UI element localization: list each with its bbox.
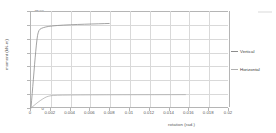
gridline-vertical [229,11,230,107]
chart-container: moment (kN-m) rotation (rad.) 0500100015… [0,0,276,133]
legend-item-horizontal[interactable]: Horizontal [231,65,276,74]
x-tick-mark [228,108,229,111]
legend-item-vertical[interactable]: Vertical [231,47,276,56]
x-tick-mark [50,108,51,111]
series-lines [31,11,229,108]
legend-line-swatch [231,69,238,70]
x-tick-mark [89,108,90,111]
x-tick-mark [169,108,170,111]
legend-item-label: Horizontal [240,67,260,72]
x-tick-mark [188,108,189,111]
x-tick-mark [129,108,130,111]
plot-area [30,11,228,108]
x-axis-title: rotation (rad.) [168,122,195,127]
legend-item-label: Vertical [240,49,254,54]
x-tick-mark [30,108,31,111]
corner-artifact [258,11,272,13]
x-tick-mark [109,108,110,111]
x-tick-mark [149,108,150,111]
x-tick-mark [70,108,71,111]
x-tick-mark [208,108,209,111]
legend-line-swatch [231,51,238,52]
chart-legend: VerticalHorizontal [231,47,276,83]
series-line-horizontal [31,95,185,108]
